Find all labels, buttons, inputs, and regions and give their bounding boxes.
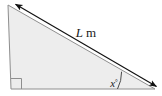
hypotenuse-symbol: L: [75, 25, 83, 40]
diagram-canvas: Lm x°: [0, 0, 162, 96]
degree-sign: °: [115, 78, 118, 86]
hypotenuse-length-label: Lm: [75, 25, 96, 40]
hypotenuse-unit: m: [86, 25, 96, 40]
triangle-shape: [8, 5, 155, 89]
right-triangle-figure: Lm x°: [0, 0, 162, 96]
